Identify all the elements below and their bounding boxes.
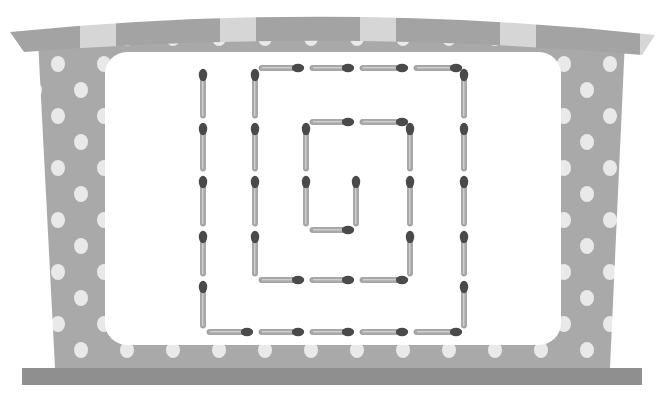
match-head-icon — [396, 276, 408, 284]
match-head-icon — [302, 123, 310, 135]
match-head-icon — [342, 64, 354, 72]
match-head-icon — [406, 231, 414, 243]
inner-panel — [105, 52, 561, 345]
match-head-icon — [241, 328, 253, 336]
matchstick-puzzle-scene — [0, 0, 665, 394]
match-head-icon — [251, 123, 259, 135]
match-head-icon — [460, 69, 468, 81]
base-bar — [22, 368, 642, 385]
match-head-icon — [251, 231, 259, 243]
match-head-icon — [292, 328, 304, 336]
match-head-icon — [199, 231, 207, 243]
match-head-icon — [342, 226, 354, 234]
match-head-icon — [460, 281, 468, 293]
match-head-icon — [352, 176, 360, 188]
match-head-icon — [199, 69, 207, 81]
match-head-icon — [396, 64, 408, 72]
match-head-icon — [199, 281, 207, 293]
match-head-icon — [396, 328, 408, 336]
match-head-icon — [460, 231, 468, 243]
match-head-icon — [450, 64, 462, 72]
match-head-icon — [342, 328, 354, 336]
match-head-icon — [460, 123, 468, 135]
match-head-icon — [199, 176, 207, 188]
match-head-icon — [342, 118, 354, 126]
match-head-icon — [302, 176, 310, 188]
match-head-icon — [292, 276, 304, 284]
match-head-icon — [292, 64, 304, 72]
match-head-icon — [199, 123, 207, 135]
match-head-icon — [450, 328, 462, 336]
match-head-icon — [460, 176, 468, 188]
match-head-icon — [406, 176, 414, 188]
match-head-icon — [342, 276, 354, 284]
match-head-icon — [406, 123, 414, 135]
match-head-icon — [251, 176, 259, 188]
match-head-icon — [251, 69, 259, 81]
match-head-icon — [396, 118, 408, 126]
